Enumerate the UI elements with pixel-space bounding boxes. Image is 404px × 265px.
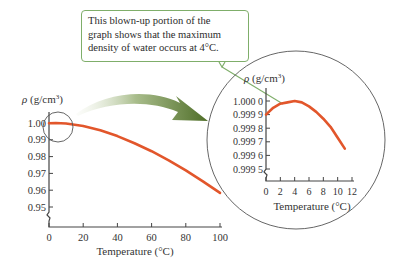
y-tick-label: 0.999 8 <box>233 123 263 134</box>
main-x-axis-label: Temperature (°C) <box>96 245 174 258</box>
main-density-curve <box>49 123 220 193</box>
inset-x-ticks: 024681012 <box>264 177 358 197</box>
y-tick-label: 0.999 6 <box>233 150 263 161</box>
main-x-ticks: 020406080100 <box>46 223 228 243</box>
callout-pointer <box>219 62 225 67</box>
inset-density-curve <box>266 101 345 149</box>
callout-line-3: density of water occurs at 4°C. <box>88 41 244 55</box>
inset-y-axis-label: ρ (g/cm3) <box>243 72 285 85</box>
x-tick-label: 100 <box>212 232 228 243</box>
x-tick-label: 0 <box>264 186 269 197</box>
y-tick-label: 0.999 7 <box>233 136 263 147</box>
x-tick-label: 10 <box>333 186 343 197</box>
callout-line-2: graph shows that the maximum <box>88 28 244 42</box>
x-tick-label: 20 <box>78 232 89 243</box>
y-tick-label: 0.98 <box>28 151 46 162</box>
x-tick-label: 80 <box>181 232 192 243</box>
x-tick-label: 8 <box>321 186 326 197</box>
main-y-axis-label: ρ (g/cm3) <box>21 93 63 106</box>
inset-x-axis-label: Temperature (°C) <box>273 200 351 213</box>
highlight-circle <box>43 112 73 142</box>
y-tick-label: 0.97 <box>28 168 46 179</box>
x-tick-label: 6 <box>307 186 312 197</box>
callout-line-1: This blown-up portion of the <box>88 14 244 28</box>
x-tick-label: 2 <box>278 186 283 197</box>
y-tick-label: 1.000 0 <box>233 96 263 107</box>
y-tick-label: 0.96 <box>28 185 46 196</box>
x-tick-label: 60 <box>146 232 157 243</box>
y-tick-label: 0.99 <box>28 134 46 145</box>
y-tick-label: 0.999 5 <box>233 164 263 175</box>
x-tick-label: 12 <box>347 186 357 197</box>
inset-y-ticks: 1.000 00.999 90.999 80.999 70.999 60.999… <box>233 96 270 175</box>
x-tick-label: 40 <box>112 232 123 243</box>
inset-axes <box>264 88 354 181</box>
y-tick-label: 0.999 9 <box>233 109 263 120</box>
inset-chart: ρ (g/cm3) 1.000 00.999 90.999 80.999 70.… <box>207 51 385 229</box>
y-tick-label: 0.95 <box>28 202 46 213</box>
x-tick-label: 0 <box>46 232 51 243</box>
curved-arrow-icon <box>76 94 208 121</box>
x-tick-label: 4 <box>292 186 297 197</box>
annotation-callout: This blown-up portion of the graph shows… <box>81 10 249 62</box>
